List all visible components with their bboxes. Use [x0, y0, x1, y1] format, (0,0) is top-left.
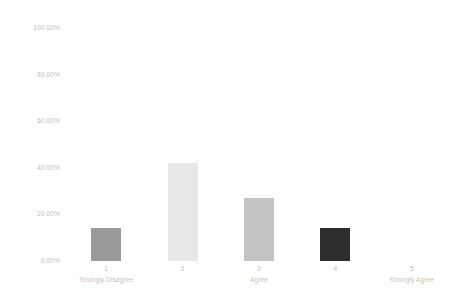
bar-2 — [168, 163, 198, 261]
x-axis-tick-label: 2 — [144, 263, 220, 275]
x-axis-tick-label: 4 — [297, 263, 373, 275]
y-axis-tick-label: 80.00% — [2, 72, 60, 79]
bar-chart: 100.00% 80.00% 60.00% 40.00% 20.00% 0.00… — [0, 0, 456, 306]
y-axis-tick-label: 40.00% — [2, 165, 60, 172]
x-axis-tick-label: 3 — [221, 263, 297, 275]
y-axis-tick-label: 20.00% — [2, 211, 60, 218]
bar-slot — [144, 28, 220, 261]
y-axis-tick-label: 60.00% — [2, 118, 60, 125]
x-axis-sublabel — [144, 275, 220, 284]
bar-slot — [374, 28, 450, 261]
x-axis-category-3: 3 Agree — [221, 263, 297, 285]
x-axis-sublabel: Agree — [221, 275, 297, 285]
x-axis: 1 Strongly Disagree 2 3 Agree 4 5 Strong… — [68, 263, 450, 306]
plot-area — [68, 28, 450, 261]
bar-4 — [320, 228, 350, 261]
bar-3 — [244, 198, 274, 261]
x-axis-sublabel: Strongly Disagree — [68, 275, 144, 285]
bar-series — [68, 28, 450, 261]
x-axis-tick-label: 1 — [68, 263, 144, 275]
x-axis-category-2: 2 — [144, 263, 220, 284]
x-axis-sublabel: Strongly Agree — [374, 275, 450, 285]
bar-slot — [68, 28, 144, 261]
x-axis-category-4: 4 — [297, 263, 373, 284]
x-axis-sublabel — [297, 275, 373, 284]
y-axis-tick-label: 0.00% — [2, 258, 60, 265]
bar-1 — [91, 228, 121, 261]
y-axis: 100.00% 80.00% 60.00% 40.00% 20.00% 0.00… — [0, 0, 68, 306]
x-axis-tick-label: 5 — [374, 263, 450, 275]
x-axis-category-1: 1 Strongly Disagree — [68, 263, 144, 285]
y-axis-tick-label: 100.00% — [2, 25, 60, 32]
bar-slot — [297, 28, 373, 261]
x-axis-category-5: 5 Strongly Agree — [374, 263, 450, 285]
bar-slot — [221, 28, 297, 261]
